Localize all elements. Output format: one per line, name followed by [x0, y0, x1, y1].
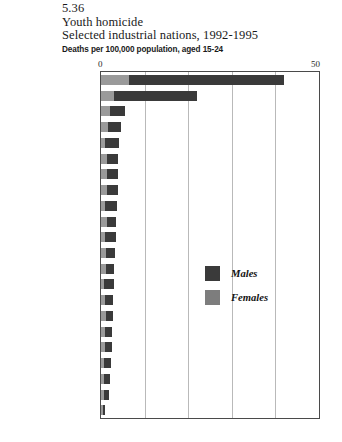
bar-segment-males [103, 405, 106, 415]
bar-segment-females [101, 91, 114, 101]
bar-segment-males [129, 75, 284, 85]
x-axis-tick-labels: 0 50 [0, 59, 342, 71]
figure-title: Youth homicide [62, 16, 338, 30]
stacked-bar [101, 154, 118, 164]
legend-swatch-males-icon [205, 266, 220, 281]
legend-label-females: Females [231, 292, 268, 303]
stacked-bar [101, 248, 115, 258]
bar-row: France [101, 308, 319, 324]
bar-segment-males [105, 201, 117, 211]
stacked-bar [101, 75, 284, 85]
chart-legend: Males Females [205, 261, 305, 309]
legend-label-males: Males [231, 268, 257, 279]
bar-segment-males [107, 217, 117, 227]
bar-segment-males [106, 248, 115, 258]
bar-row: Sweden [101, 339, 319, 355]
bar-segment-males [105, 295, 113, 305]
bar-segment-females [101, 122, 108, 132]
bar-segment-males [106, 311, 113, 321]
stacked-bar [101, 122, 121, 132]
bar-row: Spain [101, 371, 319, 387]
bar-segment-males [104, 279, 114, 289]
bar-row: Norway [101, 324, 319, 340]
x-axis-tick-max: 50 [311, 59, 320, 69]
stacked-bar [101, 405, 105, 415]
figure-number: 5.36 [62, 2, 338, 16]
stacked-bar [101, 358, 111, 368]
stacked-bar [101, 217, 116, 227]
figure-subtitle: Selected industrial nations, 1992-1995 [62, 29, 338, 43]
bar-row: New Zealand [101, 103, 319, 119]
bar-row: Finland [101, 182, 319, 198]
bar-segment-males [105, 327, 112, 337]
bar-row: Austria [101, 387, 319, 403]
bar-segment-males [114, 91, 197, 101]
bar-segment-males [108, 122, 121, 132]
bar-row: Australia [101, 166, 319, 182]
stacked-bar [101, 201, 117, 211]
stacked-bar [101, 295, 113, 305]
bar-row: N. Ireland [101, 88, 319, 104]
bar-segment-males [104, 358, 110, 368]
bar-segment-females [101, 106, 110, 116]
bar-segment-males [105, 138, 119, 148]
stacked-bar [101, 169, 118, 179]
bar-row: Canada [101, 119, 319, 135]
bar-segment-males [110, 106, 125, 116]
stacked-bar [101, 138, 119, 148]
bar-segment-males [104, 374, 110, 384]
figure-header: 5.36 Youth homicide Selected industrial … [62, 2, 338, 55]
stacked-bar [101, 185, 118, 195]
stacked-bar [101, 91, 197, 101]
figure-container: 5.36 Youth homicide Selected industrial … [0, 0, 342, 442]
bar-row: United States [101, 72, 319, 88]
bar-segment-males [107, 154, 118, 164]
stacked-bar [101, 390, 109, 400]
bar-segment-females [101, 75, 129, 85]
bar-row: Israel [101, 135, 319, 151]
figure-units-note: Deaths per 100,000 population, aged 15-2… [62, 44, 338, 55]
plot-area: United StatesN. IrelandNew ZealandCanada… [100, 71, 320, 419]
bar-segment-males [106, 264, 114, 274]
stacked-bar [101, 374, 110, 384]
stacked-bar [101, 264, 114, 274]
bar-row: Portugal [101, 214, 319, 230]
legend-swatch-females-icon [205, 290, 220, 305]
bar-row: Netherlands [101, 245, 319, 261]
bar-row: Switzerland [101, 151, 319, 167]
bar-segment-males [104, 390, 109, 400]
bar-row: Slovenia [101, 229, 319, 245]
x-axis-tick-min: 0 [98, 59, 103, 69]
stacked-bar [101, 311, 113, 321]
legend-item-males: Males [205, 261, 305, 285]
stacked-bar [101, 279, 114, 289]
bar-row: Japan [101, 402, 319, 418]
bar-segment-males [105, 342, 112, 352]
stacked-bar [101, 342, 112, 352]
legend-item-females: Females [205, 285, 305, 309]
stacked-bar [101, 327, 112, 337]
bar-segment-males [107, 185, 117, 195]
bar-segment-males [107, 169, 118, 179]
stacked-bar [101, 232, 116, 242]
bar-row: Italy [101, 198, 319, 214]
bar-segment-males [105, 232, 115, 242]
bar-row: England/Wales [101, 355, 319, 371]
bar-rows-group: United StatesN. IrelandNew ZealandCanada… [101, 72, 319, 418]
stacked-bar [101, 106, 125, 116]
